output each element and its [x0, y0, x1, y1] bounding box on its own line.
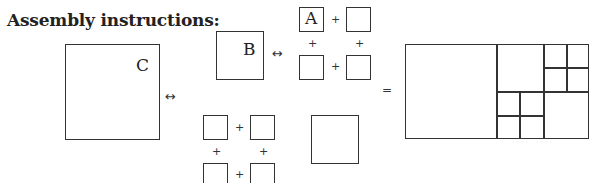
plus-icon: +: [331, 14, 340, 25]
label-a: A: [305, 8, 317, 28]
plus-icon: +: [355, 38, 364, 49]
plus-icon: +: [212, 146, 221, 157]
plus-icon: +: [235, 122, 244, 133]
small-box: [346, 7, 371, 32]
diagram-title: Assembly instructions:: [7, 10, 220, 30]
box-b: [216, 31, 264, 80]
small-box: [250, 163, 275, 183]
plus-icon: +: [259, 146, 268, 157]
label-c: C: [136, 55, 149, 75]
plus-icon: +: [308, 38, 317, 49]
medium-box: [311, 115, 359, 164]
plus-icon: +: [331, 61, 340, 72]
label-b: B: [243, 39, 256, 59]
grid-line: [566, 44, 568, 92]
arrow-icon: ↔: [165, 90, 176, 103]
small-box: [203, 115, 228, 140]
grid-line: [519, 91, 521, 139]
grid-line: [496, 91, 589, 93]
assembled-grid: [405, 44, 589, 139]
small-box: [299, 55, 324, 80]
small-box: [250, 115, 275, 140]
small-box: [203, 163, 228, 183]
arrow-icon: ↔: [272, 47, 283, 60]
small-box: [346, 55, 371, 80]
plus-icon: +: [235, 169, 244, 180]
equals-icon: =: [382, 84, 392, 96]
